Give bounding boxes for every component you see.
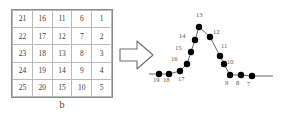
grid-cell: 19 xyxy=(32,62,52,79)
chart-point-label: 9 xyxy=(225,80,228,87)
table-row: 23 18 13 8 3 xyxy=(13,45,112,62)
chart-point-label: 14 xyxy=(179,33,186,40)
grid-cell: 16 xyxy=(32,11,52,28)
chart-point-marker xyxy=(177,68,183,74)
grid-cell: 15 xyxy=(52,79,72,96)
grid-cell: 12 xyxy=(52,28,72,45)
grid-cell: 14 xyxy=(52,62,72,79)
chart-point-marker xyxy=(196,24,202,30)
chart-point-label: 11 xyxy=(221,43,227,50)
grid-cell: 7 xyxy=(72,28,92,45)
chart-point-marker xyxy=(227,72,233,78)
grid-cell: 23 xyxy=(13,45,33,62)
chart-segment xyxy=(210,37,220,56)
figure-caption: b xyxy=(12,99,112,110)
grid-cell: 17 xyxy=(32,28,52,45)
chart-point-marker xyxy=(238,72,244,78)
chart-point-label: 7 xyxy=(247,81,250,88)
chart-point-label: 10 xyxy=(227,59,234,66)
grid-cell: 21 xyxy=(13,11,33,28)
chart-point-label: 18 xyxy=(163,77,170,84)
chart-point-label: 15 xyxy=(175,45,182,52)
chart-point-marker xyxy=(192,37,198,43)
table-row: 25 20 15 10 5 xyxy=(13,79,112,96)
grid-cell: 18 xyxy=(32,45,52,62)
grid-cell: 5 xyxy=(92,79,112,96)
grid-cell: 13 xyxy=(52,45,72,62)
grid-cell: 4 xyxy=(92,62,112,79)
grid-cell: 8 xyxy=(72,45,92,62)
chart-point-label: 8 xyxy=(236,80,239,87)
grid-cell: 6 xyxy=(72,11,92,28)
chart-point-label: 19 xyxy=(153,77,160,84)
number-grid: 21 16 11 6 1 22 17 12 7 2 23 18 13 xyxy=(12,10,112,97)
number-grid-body: 21 16 11 6 1 22 17 12 7 2 23 18 13 xyxy=(13,11,112,97)
grid-cell: 11 xyxy=(52,11,72,28)
grid-cell: 2 xyxy=(92,28,112,45)
grid-cell: 22 xyxy=(13,28,33,45)
chart-point-marker xyxy=(217,53,223,59)
table-row: 24 19 14 9 4 xyxy=(13,62,112,79)
table-row: 22 17 12 7 2 xyxy=(13,28,112,45)
grid-cell: 3 xyxy=(92,45,112,62)
chart-canvas xyxy=(142,2,284,112)
chart-point-label: 16 xyxy=(171,56,178,63)
chart-point-marker xyxy=(249,73,255,79)
grid-cell: 1 xyxy=(92,11,112,28)
figure-panel: 21 16 11 6 1 22 17 12 7 2 23 18 13 xyxy=(0,0,284,122)
chart-point-marker xyxy=(184,61,190,67)
grid-cell: 10 xyxy=(72,79,92,96)
number-grid-table: 21 16 11 6 1 22 17 12 7 2 23 18 13 xyxy=(12,10,112,97)
chart-point-label: 12 xyxy=(213,29,220,36)
chart-point-marker xyxy=(188,49,194,55)
table-row: 21 16 11 6 1 xyxy=(13,11,112,28)
grid-cell: 24 xyxy=(13,62,33,79)
chart-point-label: 17 xyxy=(178,76,185,83)
peak-line-chart: 19181716151413121110987 xyxy=(142,2,284,112)
grid-cell: 20 xyxy=(32,79,52,96)
grid-cell: 9 xyxy=(72,62,92,79)
chart-point-label: 13 xyxy=(196,12,203,19)
grid-cell: 25 xyxy=(13,79,33,96)
